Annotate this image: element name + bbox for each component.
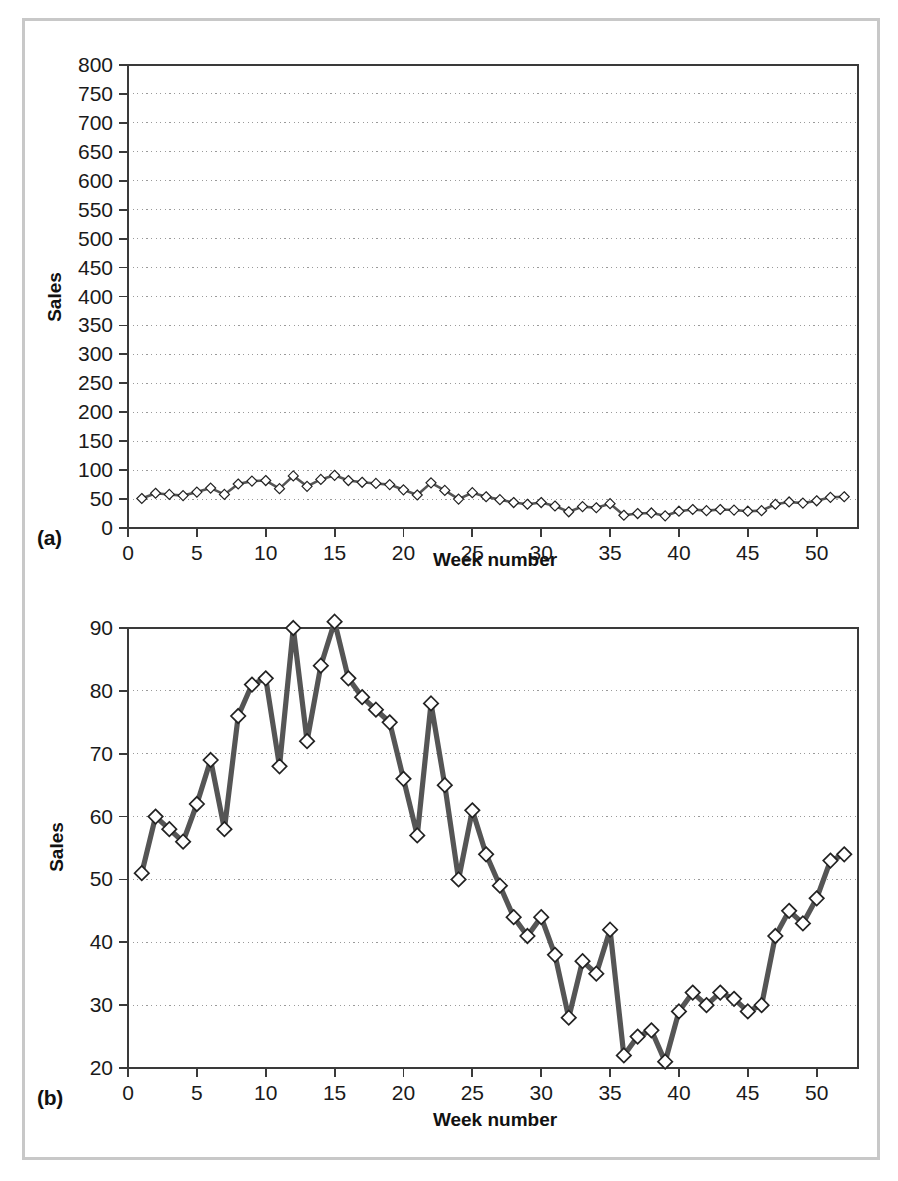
panel-a-y-tick-label: 0 <box>41 517 113 538</box>
panel-b-plot <box>25 581 883 1161</box>
panel-a-plot <box>25 21 883 581</box>
panel-b-x-tick-label: 25 <box>442 1082 502 1103</box>
panel-a-y-tick-label: 750 <box>41 83 113 104</box>
panel-b-x-tick-label: 50 <box>787 1082 847 1103</box>
panel-b-y-tick-label: 40 <box>41 931 113 952</box>
chart-panel-b: Sales Week number (b) 203040506070809005… <box>25 581 883 1161</box>
panel-a-y-tick-label: 800 <box>41 54 113 75</box>
panel-a-x-tick-label: 10 <box>236 542 296 563</box>
panel-a-y-tick-label: 600 <box>41 170 113 191</box>
panel-a-y-tick-label: 100 <box>41 459 113 480</box>
panel-b-y-tick-label: 80 <box>41 680 113 701</box>
panel-a-y-tick-label: 150 <box>41 430 113 451</box>
panel-a-y-tick-label: 50 <box>41 488 113 509</box>
panel-a-y-tick-label: 550 <box>41 199 113 220</box>
panel-a-x-tick-label: 5 <box>167 542 227 563</box>
figure-container: Sales Week number (a) 050100150200250300… <box>22 18 880 1160</box>
panel-a-y-tick-label: 300 <box>41 343 113 364</box>
panel-b-x-tick-label: 30 <box>511 1082 571 1103</box>
panel-b-y-tick-label: 70 <box>41 743 113 764</box>
panel-a-x-tick-label: 20 <box>373 542 433 563</box>
panel-b-x-tick-label: 5 <box>167 1082 227 1103</box>
panel-a-x-tick-label: 25 <box>442 542 502 563</box>
panel-b-x-tick-label: 40 <box>649 1082 709 1103</box>
panel-a-x-tick-label: 40 <box>649 542 709 563</box>
panel-b-y-tick-label: 60 <box>41 806 113 827</box>
panel-b-x-tick-label: 15 <box>305 1082 365 1103</box>
panel-a-y-tick-label: 450 <box>41 257 113 278</box>
panel-b-x-tick-label: 35 <box>580 1082 640 1103</box>
panel-a-y-tick-label: 250 <box>41 372 113 393</box>
panel-a-x-tick-label: 35 <box>580 542 640 563</box>
panel-b-y-tick-label: 90 <box>41 617 113 638</box>
panel-a-x-tick-label: 50 <box>787 542 847 563</box>
panel-a-y-tick-label: 650 <box>41 141 113 162</box>
panel-b-x-tick-label: 45 <box>718 1082 778 1103</box>
panel-a-y-tick-label: 400 <box>41 286 113 307</box>
panel-a-y-tick-label: 350 <box>41 314 113 335</box>
panel-a-x-tick-label: 0 <box>98 542 158 563</box>
panel-b-y-tick-label: 50 <box>41 868 113 889</box>
panel-a-x-tick-label: 30 <box>511 542 571 563</box>
panel-a-x-tick-label: 15 <box>305 542 365 563</box>
chart-panel-a: Sales Week number (a) 050100150200250300… <box>25 21 883 581</box>
panel-b-y-tick-label: 30 <box>41 994 113 1015</box>
panel-b-y-tick-label: 20 <box>41 1057 113 1078</box>
panel-a-y-tick-label: 200 <box>41 401 113 422</box>
panel-b-x-tick-label: 0 <box>98 1082 158 1103</box>
panel-b-x-tick-label: 20 <box>373 1082 433 1103</box>
panel-a-x-tick-label: 45 <box>718 542 778 563</box>
panel-a-y-tick-label: 500 <box>41 228 113 249</box>
panel-a-y-tick-label: 700 <box>41 112 113 133</box>
panel-b-x-tick-label: 10 <box>236 1082 296 1103</box>
